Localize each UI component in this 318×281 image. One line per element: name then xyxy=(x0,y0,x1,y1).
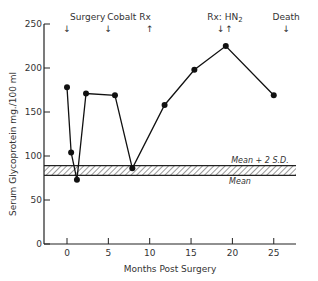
data-point xyxy=(74,177,80,183)
axes: 0501001502002500510152025Months Post Sur… xyxy=(8,19,296,274)
data-point xyxy=(68,149,74,155)
annotations: Surgery↓Cobalt Rx↓↑Rx: HN2↓↑Death↓ xyxy=(63,12,300,34)
x-tick-label: 20 xyxy=(227,248,239,258)
data-point xyxy=(191,67,197,73)
mean-2sd-label: Mean + 2 S.D. xyxy=(231,156,289,165)
arrow-down-icon: ↓ xyxy=(105,24,113,34)
data-point xyxy=(223,43,229,49)
mean-label: Mean xyxy=(229,177,251,186)
y-tick-label: 50 xyxy=(31,195,43,205)
data-point xyxy=(64,84,70,90)
x-tick-label: 10 xyxy=(144,248,156,258)
death-label: Death xyxy=(273,12,300,22)
data-point xyxy=(271,92,277,98)
y-tick-label: 150 xyxy=(25,107,42,117)
data-point xyxy=(112,92,118,98)
arrow-down-icon: ↓ xyxy=(282,24,290,34)
y-axis-label: Serum Glycoprotein mg./100 ml xyxy=(8,72,18,216)
cobalt-label: Cobalt Rx xyxy=(107,12,151,22)
x-axis-label: Months Post Surgery xyxy=(124,264,217,274)
rx-hn2-label: Rx: HN2 xyxy=(207,12,242,24)
arrow-up-icon: ↑ xyxy=(225,24,233,34)
arrow-down-icon: ↓ xyxy=(63,24,71,34)
y-tick-label: 0 xyxy=(36,239,42,249)
x-tick-label: 0 xyxy=(64,248,70,258)
chart: 0501001502002500510152025Months Post Sur… xyxy=(0,0,318,281)
x-tick-label: 25 xyxy=(268,248,279,258)
arrow-up-icon: ↑ xyxy=(146,24,154,34)
data-point xyxy=(129,165,135,171)
data-point xyxy=(83,91,89,97)
x-tick-label: 5 xyxy=(105,248,111,258)
reference-band: Mean + 2 S.D.Mean xyxy=(44,156,296,187)
x-tick-label: 15 xyxy=(185,248,196,258)
y-tick-label: 100 xyxy=(25,151,42,161)
data-point xyxy=(162,102,168,108)
y-tick-label: 250 xyxy=(25,19,42,29)
surgery-label: Surgery xyxy=(70,12,106,22)
arrow-down-icon: ↓ xyxy=(217,24,225,34)
y-tick-label: 200 xyxy=(25,63,42,73)
